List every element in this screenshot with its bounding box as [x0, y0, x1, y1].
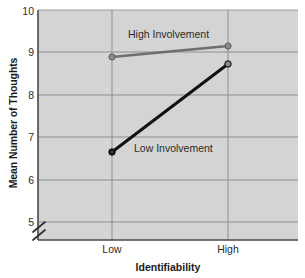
x-tick-low: Low — [102, 243, 121, 255]
plot-background — [38, 10, 298, 240]
x-axis-title: Identifiability — [38, 261, 298, 273]
series-label-high-involvement: High Involvement — [128, 28, 209, 40]
chart-figure: Mean Number of Thoughts 10 9 8 7 6 5 — [0, 0, 305, 278]
y-tick-10: 10 — [4, 6, 34, 17]
x-tick-high: High — [217, 243, 239, 255]
y-axis-tick-labels: 10 9 8 7 6 5 — [0, 0, 34, 278]
datapoint-high-involvement-low — [109, 54, 115, 60]
y-tick-6: 6 — [4, 175, 34, 186]
y-tick-5: 5 — [4, 217, 34, 228]
y-tick-9: 9 — [4, 47, 34, 58]
plot-area — [0, 0, 305, 278]
datapoint-low-involvement-high — [225, 61, 231, 67]
datapoint-low-involvement-low — [109, 149, 115, 155]
datapoint-high-involvement-high — [225, 43, 231, 49]
y-tick-7: 7 — [4, 132, 34, 143]
y-tick-8: 8 — [4, 90, 34, 101]
series-label-low-involvement: Low Involvement — [134, 142, 213, 154]
